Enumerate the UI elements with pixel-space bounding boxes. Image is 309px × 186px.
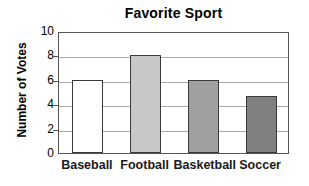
x-category-label-basketball: Basketball — [174, 158, 232, 172]
gridline — [59, 57, 288, 58]
y-tick-label-6: 6 — [28, 73, 54, 87]
bar-football[interactable] — [130, 55, 161, 153]
y-tick-label-10: 10 — [28, 24, 54, 38]
plot-area — [58, 32, 289, 154]
bar-basketball[interactable] — [188, 80, 219, 153]
bar-soccer[interactable] — [246, 96, 277, 153]
chart-title: Favorite Sport — [58, 5, 289, 21]
x-category-label-soccer: Soccer — [231, 158, 289, 172]
y-tick-label-8: 8 — [28, 48, 54, 62]
bar-baseball[interactable] — [72, 80, 103, 153]
x-category-label-football: Football — [116, 158, 174, 172]
y-axis-title: Number of Votes — [15, 25, 29, 155]
y-tick-label-4: 4 — [28, 97, 54, 111]
x-category-label-baseball: Baseball — [58, 158, 116, 172]
y-tick-label-2: 2 — [28, 122, 54, 136]
y-tick-label-0: 0 — [28, 146, 54, 160]
bar-chart: Favorite Sport Number of Votes 1086420 B… — [0, 0, 309, 186]
